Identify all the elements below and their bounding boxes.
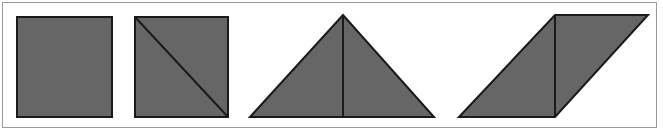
- figure-root: SquareSquare with diagonalTriangle with …: [0, 0, 663, 134]
- shapes-group: SquareSquare with diagonalTriangle with …: [17, 15, 648, 117]
- shape-square-plain: Square: [17, 17, 112, 117]
- square-plain-outline: [17, 17, 112, 117]
- parallelogram-divided-outline: [459, 15, 648, 117]
- shape-triangle-median: Triangle with vertical median: [250, 15, 434, 117]
- shape-parallelogram-divided: Parallelogram with vertical division: [459, 15, 648, 117]
- shapes-canvas: SquareSquare with diagonalTriangle with …: [0, 0, 663, 134]
- shape-square-diagonal: Square with diagonal: [135, 17, 228, 117]
